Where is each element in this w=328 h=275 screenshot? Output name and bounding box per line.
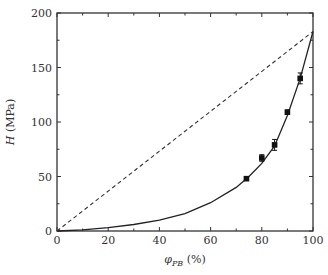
- axis-ticks: [57, 13, 313, 231]
- y-tick-label: 100: [31, 116, 52, 129]
- y-tick-label: 200: [31, 7, 52, 20]
- y-axis-label: H (MPa): [4, 99, 17, 146]
- y-tick-label: 150: [31, 62, 52, 75]
- y-tick-label: 0: [45, 225, 52, 238]
- chart: 020406080100050100150200 φPB (%) H (MPa): [0, 0, 328, 275]
- y-tick-label: 50: [38, 171, 52, 184]
- x-tick-label: 100: [303, 234, 324, 247]
- series-layer: [57, 32, 313, 232]
- x-tick-label: 60: [204, 234, 218, 247]
- tick-labels: 020406080100050100150200: [31, 7, 324, 247]
- x-tick-label: 80: [255, 234, 269, 247]
- data-point: [285, 109, 291, 115]
- x-axis-label: φPB (%): [164, 253, 206, 268]
- data-point: [297, 76, 303, 82]
- x-tick-label: 0: [54, 234, 61, 247]
- plot-frame: [57, 13, 313, 231]
- data-point: [244, 176, 250, 182]
- x-tick-label: 40: [152, 234, 166, 247]
- data-point: [272, 142, 278, 148]
- plot-border: [57, 13, 313, 231]
- dashed-line: [57, 32, 313, 231]
- data-point: [259, 155, 265, 161]
- x-tick-label: 20: [101, 234, 115, 247]
